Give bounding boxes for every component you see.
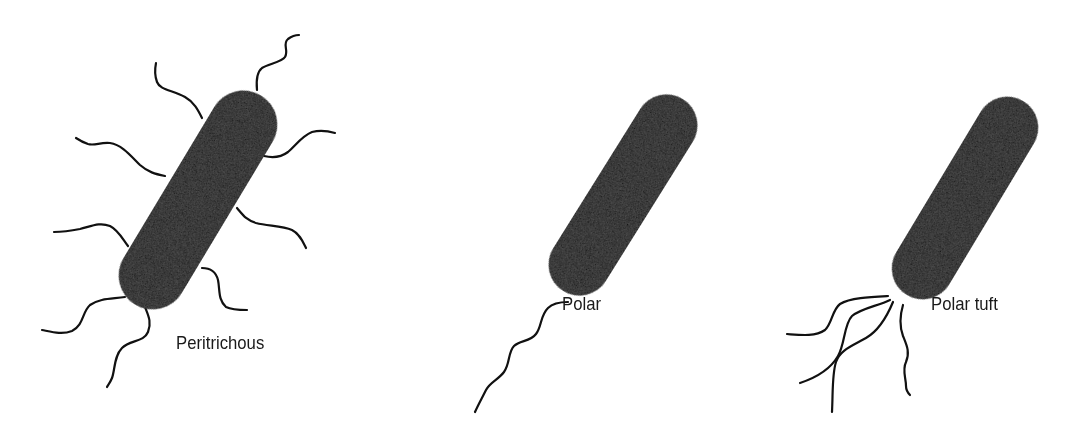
- flagellum: [107, 307, 150, 387]
- flagellum: [42, 297, 125, 333]
- peritrichous-cell-body: [106, 78, 290, 322]
- flagellum: [76, 138, 165, 176]
- flagellum: [155, 63, 202, 118]
- polar-cell-body: [537, 83, 709, 308]
- polar-tuft-bacterium: [787, 85, 1050, 412]
- flagellum: [832, 302, 893, 412]
- flagellum: [54, 224, 128, 246]
- polar-tuft-flagella: [787, 296, 910, 412]
- flagellum: [787, 296, 888, 335]
- flagellum: [202, 268, 247, 310]
- flagellum: [475, 302, 568, 412]
- label-peritrichous: Peritrichous: [176, 333, 264, 352]
- polar-tuft-cell-body: [880, 85, 1050, 311]
- flagellum: [237, 208, 306, 248]
- flagella-arrangement-diagram: [0, 0, 1071, 442]
- flagellum: [900, 305, 910, 395]
- label-polar: Polar: [562, 294, 601, 313]
- flagellum: [257, 35, 299, 90]
- label-polar-tuft: Polar tuft: [931, 294, 998, 313]
- polar-bacterium: [475, 83, 709, 412]
- flagellum: [800, 300, 890, 383]
